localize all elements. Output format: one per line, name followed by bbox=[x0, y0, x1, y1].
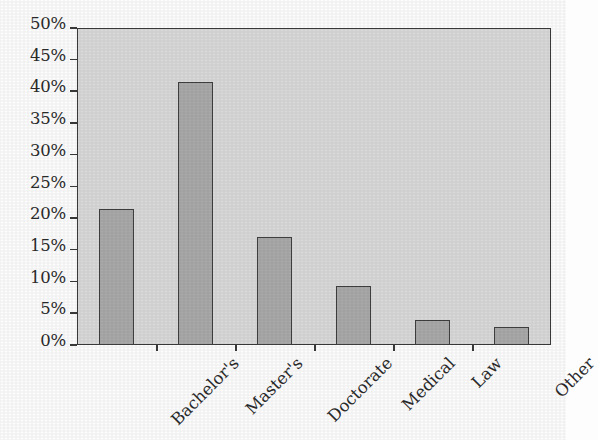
y-tick-label: 50% bbox=[30, 16, 66, 33]
bar-medical bbox=[336, 286, 371, 345]
y-tick-label: 20% bbox=[30, 206, 66, 223]
y-tick-label: 45% bbox=[30, 48, 66, 65]
x-tick-mark bbox=[393, 345, 395, 351]
x-tick-label: Medical bbox=[399, 355, 458, 414]
y-tick-mark bbox=[70, 27, 77, 29]
y-tick-label: 35% bbox=[30, 111, 66, 128]
y-tick-label: 5% bbox=[40, 301, 66, 318]
y-tick-label: 10% bbox=[30, 270, 66, 287]
bar-doctorate bbox=[257, 237, 292, 345]
x-tick-label: Doctorate bbox=[325, 355, 395, 425]
x-tick-mark bbox=[472, 345, 474, 351]
y-tick-mark bbox=[70, 312, 77, 314]
y-tick-mark bbox=[70, 281, 77, 283]
y-tick-label: 30% bbox=[30, 143, 66, 160]
y-tick-mark bbox=[70, 249, 77, 251]
y-tick-label: 15% bbox=[30, 238, 66, 255]
bar-law bbox=[415, 320, 450, 345]
bar-other bbox=[494, 327, 529, 345]
x-tick-label: Law bbox=[469, 355, 505, 391]
x-axis: Bachelor'sMaster'sDoctorateMedicalLawOth… bbox=[0, 345, 566, 440]
y-tick-mark bbox=[70, 90, 77, 92]
y-tick-label: 25% bbox=[30, 175, 66, 192]
y-tick-mark bbox=[70, 59, 77, 61]
x-tick-mark bbox=[156, 345, 158, 351]
bar-bachelor-s bbox=[99, 209, 134, 345]
y-tick-label: 40% bbox=[30, 79, 66, 96]
x-tick-label: Bachelor's bbox=[168, 355, 242, 429]
x-tick-label: Other bbox=[552, 355, 598, 401]
plot-area bbox=[77, 28, 551, 345]
y-tick-mark bbox=[70, 186, 77, 188]
bar-master-s bbox=[178, 82, 213, 345]
y-tick-mark bbox=[70, 217, 77, 219]
x-tick-mark bbox=[314, 345, 316, 351]
y-tick-mark bbox=[70, 154, 77, 156]
x-tick-mark bbox=[235, 345, 237, 351]
y-tick-mark bbox=[70, 122, 77, 124]
x-tick-label: Master's bbox=[243, 355, 306, 418]
